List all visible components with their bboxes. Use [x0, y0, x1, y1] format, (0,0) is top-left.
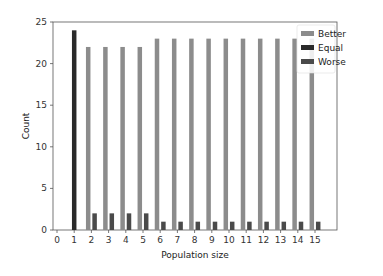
- y-tick-label: 10: [36, 142, 48, 152]
- x-tick-label: 3: [106, 235, 112, 245]
- bar-chart: 0510152025 0123456789101112131415 Popula…: [0, 0, 383, 276]
- x-axis: 0123456789101112131415: [54, 230, 321, 245]
- y-tick-label: 0: [41, 225, 47, 235]
- x-tick-label: 11: [240, 235, 251, 245]
- bar-better-2: [86, 47, 91, 230]
- legend-label-better: Better: [318, 29, 346, 39]
- bar-better-5: [138, 47, 143, 230]
- legend-label-equal: Equal: [318, 43, 343, 53]
- x-tick-label: 14: [292, 235, 304, 245]
- x-tick-label: 13: [275, 235, 286, 245]
- legend-swatch-better: [301, 31, 314, 36]
- bar-worse-7: [178, 222, 183, 230]
- x-axis-label: Population size: [161, 250, 229, 260]
- bar-worse-5: [144, 213, 149, 230]
- x-tick-label: 5: [140, 235, 146, 245]
- x-tick-label: 2: [89, 235, 95, 245]
- x-tick-label: 8: [192, 235, 198, 245]
- bar-better-12: [258, 39, 263, 230]
- y-tick-label: 15: [36, 100, 47, 110]
- bar-better-6: [155, 39, 160, 230]
- y-axis: 0510152025: [36, 17, 53, 235]
- bar-better-13: [275, 39, 280, 230]
- bar-worse-8: [196, 222, 201, 230]
- bar-better-8: [189, 39, 194, 230]
- bar-better-11: [241, 39, 246, 230]
- bar-worse-15: [316, 222, 321, 230]
- bar-worse-14: [299, 222, 304, 230]
- bar-equal-1: [72, 30, 77, 230]
- y-tick-label: 5: [41, 183, 47, 193]
- bar-worse-13: [282, 222, 287, 230]
- x-tick-label: 9: [209, 235, 215, 245]
- x-tick-label: 1: [71, 235, 77, 245]
- legend: BetterEqualWorse: [297, 25, 346, 73]
- bar-better-7: [172, 39, 177, 230]
- bar-worse-11: [247, 222, 252, 230]
- bar-worse-12: [264, 222, 269, 230]
- x-tick-label: 6: [157, 235, 163, 245]
- bar-worse-2: [92, 213, 97, 230]
- bar-worse-6: [161, 222, 166, 230]
- bar-better-4: [120, 47, 125, 230]
- bar-better-3: [103, 47, 108, 230]
- x-tick-label: 7: [175, 235, 181, 245]
- x-tick-label: 10: [223, 235, 235, 245]
- bar-worse-10: [230, 222, 235, 230]
- x-tick-label: 0: [54, 235, 60, 245]
- bar-better-14: [292, 39, 297, 230]
- y-tick-label: 20: [36, 59, 48, 69]
- y-tick-label: 25: [36, 17, 47, 27]
- bar-worse-4: [127, 213, 132, 230]
- legend-swatch-worse: [301, 59, 314, 64]
- y-axis-label: Count: [21, 112, 31, 139]
- x-tick-label: 4: [123, 235, 129, 245]
- bar-better-10: [224, 39, 229, 230]
- legend-label-worse: Worse: [318, 57, 346, 67]
- bar-worse-9: [213, 222, 218, 230]
- x-tick-label: 12: [258, 235, 269, 245]
- bar-worse-3: [110, 213, 115, 230]
- x-tick-label: 15: [309, 235, 320, 245]
- bar-better-9: [206, 39, 211, 230]
- legend-swatch-equal: [301, 45, 314, 50]
